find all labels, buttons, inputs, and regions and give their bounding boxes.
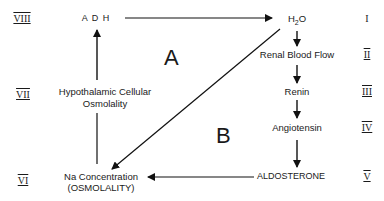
roman-v: V (359, 171, 375, 182)
roman-vi: VI (14, 175, 32, 186)
h2o-h: H (288, 13, 295, 24)
node-na-concentration: Na Concentration (64, 171, 138, 182)
roman-ii: II (358, 49, 376, 60)
roman-iii: III (356, 86, 378, 97)
node-adh: A D H (82, 13, 111, 24)
roman-viii: VIII (9, 13, 35, 24)
arrow-h2o-to-na-diagonal (112, 29, 280, 169)
node-renal-blood-flow: Renal Blood Flow (260, 49, 334, 60)
h2o-o: O (299, 13, 306, 24)
node-hypothalamic-line2: Osmolality (83, 98, 127, 109)
node-osmolality: (OSMOLALITY) (67, 182, 134, 193)
node-renin: Renin (285, 86, 310, 97)
node-h2o: H2O (288, 13, 306, 28)
node-aldosterone: ALDOSTERONE (257, 171, 325, 182)
region-label-b: B (216, 124, 231, 148)
arrows-layer (0, 0, 384, 201)
region-label-a: A (164, 46, 179, 70)
roman-iv: IV (357, 122, 377, 133)
node-hypothalamic-line1: Hypothalamic Cellular (59, 86, 151, 97)
roman-i: I (360, 13, 374, 24)
roman-vii: VII (12, 89, 34, 100)
node-angiotensin: Angiotensin (272, 122, 322, 133)
